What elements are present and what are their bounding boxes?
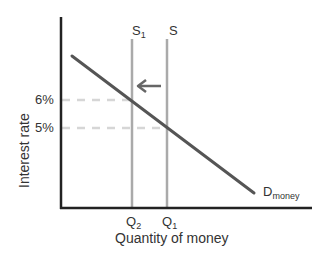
s1-main: S — [132, 23, 141, 38]
x-tick-q2: Q2 — [126, 214, 141, 231]
y-axis-label: Interest rate — [16, 113, 32, 188]
d-main: D — [263, 184, 272, 199]
x-axis-label: Quantity of money — [115, 230, 229, 246]
s1-label: S1 — [132, 23, 146, 40]
y-tick-5pct: 5% — [35, 120, 54, 135]
shift-left-arrow — [138, 80, 161, 92]
d-sub: money — [272, 191, 299, 201]
y-tick-6pct: 6% — [35, 92, 54, 107]
q1-main: Q — [162, 214, 172, 229]
s-label: S — [169, 23, 178, 38]
demand-line — [72, 56, 254, 193]
s1-sub: 1 — [141, 30, 146, 40]
x-tick-q1: Q1 — [162, 214, 177, 231]
q2-main: Q — [126, 214, 136, 229]
demand-label: Dmoney — [263, 184, 299, 201]
